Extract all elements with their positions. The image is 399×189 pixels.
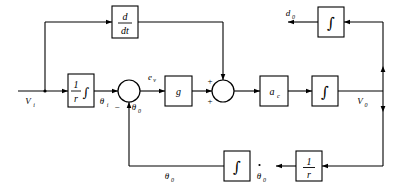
label-theta-i: θ <box>100 96 105 106</box>
arrow-v0-up <box>381 66 386 72</box>
summing-junction-2[interactable] <box>212 80 234 102</box>
label-error-ev-sub: v <box>153 77 156 83</box>
gain-label: g <box>176 86 181 97</box>
theta-dot-accent <box>258 164 260 166</box>
accel-label: a <box>270 86 275 97</box>
label-error-ev: e <box>148 72 152 82</box>
arrow-v0-down <box>381 106 386 112</box>
block-input-scaler[interactable] <box>68 74 94 107</box>
derivative-denominator: dt <box>121 25 129 36</box>
label-input-vi: V <box>25 96 32 106</box>
block-diagram-canvas: d dt 1 r ∫ g a c ∫ ∫ ∫ 1 r − <box>0 0 399 189</box>
label-theta0-bottom: θ <box>165 171 170 181</box>
label-input-vi-sub: i <box>33 102 35 108</box>
rate-scaler-numerator: 1 <box>307 156 312 167</box>
integrator-feedback-icon: ∫ <box>233 158 241 176</box>
label-theta0-feedback-sub: 0 <box>138 108 141 114</box>
sum2-plus-bottom-sign: + <box>207 96 212 106</box>
input-scaler-integral-icon: ∫ <box>83 85 90 100</box>
label-theta-dot-0-sub: 0 <box>263 177 266 183</box>
sum2-plus-top-sign: + <box>207 76 212 86</box>
label-d0: d <box>286 8 291 18</box>
input-scaler-numerator: 1 <box>74 79 79 90</box>
label-theta0-bottom-sub: 0 <box>171 177 174 183</box>
block-diagram-svg: d dt 1 r ∫ g a c ∫ ∫ ∫ 1 r − <box>0 0 399 189</box>
summing-junction-1[interactable] <box>118 80 140 102</box>
label-output-v0: V <box>357 96 364 106</box>
input-scaler-denominator: r <box>74 93 78 104</box>
rate-scaler-denominator: r <box>307 169 311 180</box>
label-theta-dot-0: θ <box>257 171 262 181</box>
integrator-top-icon: ∫ <box>327 14 335 32</box>
label-d0-sub: 0 <box>292 14 295 20</box>
accel-label-sub: c <box>277 92 280 99</box>
label-output-v0-sub: 0 <box>365 102 368 108</box>
sum1-minus-sign: − <box>114 102 119 112</box>
label-theta0-feedback: θ <box>132 102 137 112</box>
label-theta-i-sub: i <box>107 102 109 108</box>
integrator-forward-icon: ∫ <box>321 83 329 101</box>
